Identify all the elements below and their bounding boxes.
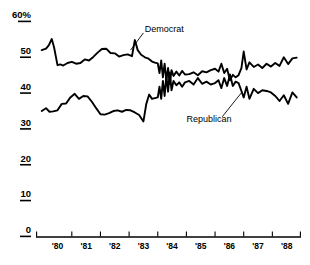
x-axis-tick-label: '84 [166,241,178,251]
series-line-republican [42,72,297,121]
x-axis-tick-group: '80'81'82'83'84'85'86'87'88 [37,232,301,251]
x-axis-tick-label: '86 [224,241,236,251]
y-axis-tick-label: 10 [20,188,31,199]
y-axis-tick-label: 20 [20,153,31,164]
chart-canvas: 60%50403020100 '80'81'82'83'84'85'86'87'… [0,0,310,265]
data-series-group [42,39,297,121]
x-axis-tick-label: '82 [109,241,121,251]
x-axis-tick-label: '87 [252,241,264,251]
y-axis-tick-label: 30 [20,117,31,128]
x-axis-tick-label: '88 [281,241,293,251]
y-axis-tick-group: 60%50403020100 [12,9,32,236]
y-axis-tick-label: 0 [26,224,31,235]
x-axis-tick-label: '81 [80,241,92,251]
x-axis-tick-label: '83 [138,241,150,251]
x-axis-tick-label: '80 [52,241,64,251]
republican-annotation-leader-line [222,92,242,117]
x-axis-tick-label: '85 [195,241,207,251]
democrat-annotation-label: Democrat [145,24,185,34]
y-axis-tick-label: 40 [20,81,31,92]
y-axis-tick-label: 60% [12,9,32,20]
party-identification-chart: 60%50403020100 '80'81'82'83'84'85'86'87'… [0,0,310,265]
republican-annotation-label: Republican [186,114,231,124]
y-axis-tick-label: 50 [20,45,31,56]
